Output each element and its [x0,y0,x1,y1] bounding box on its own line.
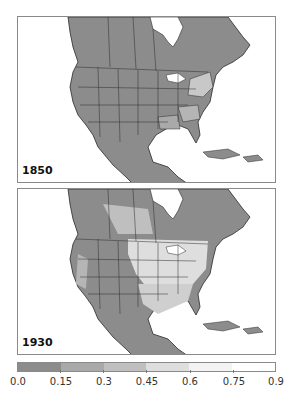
colorbar-bin [232,363,275,371]
colorbar-tick-label: 0.0 [10,376,26,387]
north-america-map-1930 [18,189,276,355]
year-label: 1850 [22,164,53,177]
colorbar-tick-label: 0.6 [182,376,198,387]
map-panel-1850: 1850 [17,16,276,183]
colorbar-bin [146,363,189,371]
colorbar-tick-mark [60,370,61,373]
colorbar-tick-label: 0.15 [50,376,72,387]
colorbar-tick-label: 0.45 [136,376,158,387]
colorbar-tick-mark [146,370,147,373]
colorbar-tick-mark [190,370,191,373]
colorbar-tick-label: 0.9 [268,376,284,387]
year-label: 1930 [22,336,53,349]
colorbar-bin [189,363,232,371]
colorbar-bin [61,363,104,371]
colorbar-tick-label: 0.3 [96,376,112,387]
colorbar-tick-label: 0.75 [223,376,245,387]
north-america-map-1850 [18,17,276,183]
colorbar-bin [104,363,147,371]
map-panel-1930: 1930 [17,188,276,355]
colorbar-bin [18,363,61,371]
colorbar-tick-mark [103,370,104,373]
colorbar-tick-mark [233,370,234,373]
